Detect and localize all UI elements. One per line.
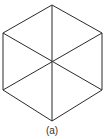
figure-caption: (a)	[0, 125, 104, 136]
hexagon-figure: (a)	[0, 0, 104, 139]
hexagon-diagram	[0, 0, 104, 125]
